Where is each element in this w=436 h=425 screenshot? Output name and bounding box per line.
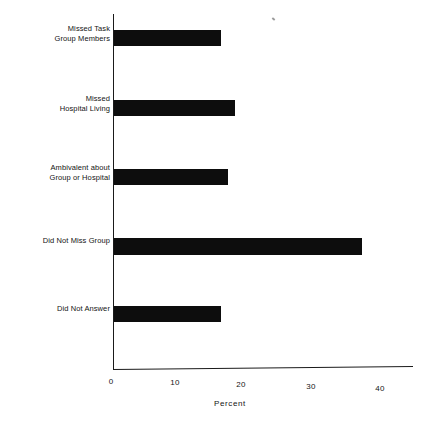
x-tick-label-20: 20	[236, 380, 246, 389]
x-axis-title: Percent	[214, 399, 246, 408]
scan-artifact-speck	[272, 17, 276, 20]
category-label: Ambivalent about Group or Hospital	[0, 163, 110, 182]
bar-row: Did Not Answer	[0, 305, 436, 323]
category-label: Did Not Miss Group	[0, 236, 110, 246]
bar-missed-hospital-living	[114, 100, 235, 116]
bar-missed-task-group-members	[114, 30, 221, 46]
category-label: Did Not Answer	[0, 304, 110, 314]
bar-row: Ambivalent about Group or Hospital	[0, 168, 436, 186]
x-axis-line	[113, 366, 413, 370]
bar-chart-figure: Missed Task Group Members Missed Hospita…	[0, 0, 436, 425]
x-tick-label-30: 30	[306, 382, 316, 391]
bar-row: Missed Hospital Living	[0, 99, 436, 117]
x-tick-label-10: 10	[170, 378, 180, 387]
x-tick-label-0: 0	[109, 377, 114, 386]
category-label: Missed Task Group Members	[0, 24, 110, 43]
bar-row: Missed Task Group Members	[0, 29, 436, 47]
x-axis-title-wrap: Percent	[0, 399, 436, 408]
bar-did-not-answer	[114, 306, 221, 322]
category-label: Missed Hospital Living	[0, 94, 110, 113]
bar-row: Did Not Miss Group	[0, 237, 436, 255]
bar-did-not-miss-group	[114, 238, 362, 255]
bar-ambivalent-about-group-or-hospital	[114, 169, 228, 185]
x-tick-label-40: 40	[375, 384, 385, 393]
